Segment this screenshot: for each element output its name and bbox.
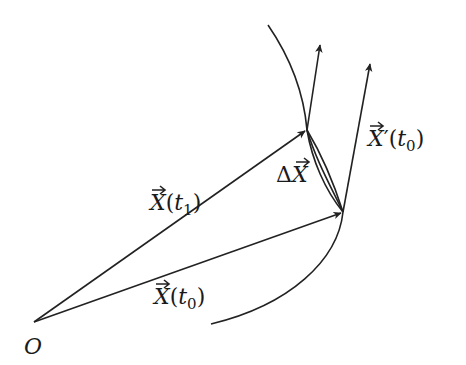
origin-label: O <box>24 334 42 359</box>
vector-diagram: O X(t1) X(t0) ΔX X′(t0) <box>0 0 466 365</box>
label-x-prime-t0: X′(t0) <box>366 122 424 155</box>
arrow-at-t1 <box>307 45 320 130</box>
svg-text:X′(t0): X′(t0) <box>366 126 424 155</box>
svg-text:X(t1): X(t1) <box>148 190 201 219</box>
derivative-vector-x-prime-t0 <box>343 64 370 212</box>
svg-text:X(t0): X(t0) <box>152 284 205 313</box>
label-delta-x: ΔX <box>276 158 309 187</box>
label-x-t1: X(t1) <box>148 186 201 219</box>
label-x-t0: X(t0) <box>152 280 205 313</box>
